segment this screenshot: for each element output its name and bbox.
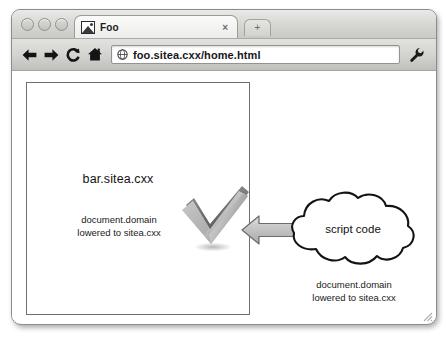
cloud-caption: document.domain lowered to sitea.cxx	[284, 279, 424, 304]
tab-strip: Foo × +	[12, 10, 436, 39]
resize-grip[interactable]	[420, 308, 433, 321]
tab-title: Foo	[100, 22, 119, 33]
browser-window: Foo × +	[11, 9, 437, 325]
page-viewport: bar.sitea.cxx document.domain lowered to…	[12, 71, 436, 323]
window-controls	[21, 18, 68, 31]
cloud-caption-line2: lowered to sitea.cxx	[284, 292, 424, 305]
address-bar[interactable]: foo.sitea.cxx/home.html	[111, 45, 400, 64]
window-close-button[interactable]	[21, 18, 34, 31]
browser-toolbar: foo.sitea.cxx/home.html	[12, 39, 436, 71]
cloud-label: script code	[288, 223, 418, 235]
window-minimize-button[interactable]	[38, 18, 51, 31]
forward-button[interactable]	[40, 44, 62, 66]
url-text: foo.sitea.cxx/home.html	[133, 49, 261, 61]
back-button[interactable]	[18, 44, 40, 66]
new-tab-button[interactable]: +	[244, 19, 271, 36]
browser-tab-foo[interactable]: Foo ×	[74, 15, 238, 38]
cloud-caption-line1: document.domain	[284, 279, 424, 292]
home-button[interactable]	[84, 44, 106, 66]
globe-icon	[117, 46, 128, 64]
wrench-icon[interactable]	[406, 44, 428, 66]
image-icon	[81, 21, 95, 34]
reload-button[interactable]	[62, 44, 84, 66]
close-icon[interactable]: ×	[222, 22, 228, 33]
window-maximize-button[interactable]	[55, 18, 68, 31]
